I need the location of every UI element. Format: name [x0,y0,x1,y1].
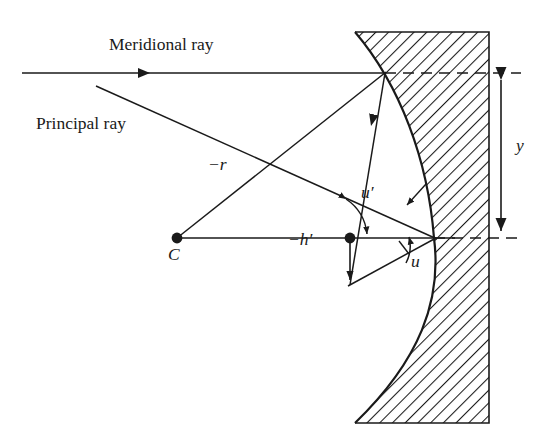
label-principal-ray: Principal ray [36,115,126,133]
leader-arrow-u-prime [407,184,426,205]
label-angle-u: u [411,253,420,271]
meridional-ray-reflected [350,73,385,285]
diagram-canvas [0,0,550,445]
reflected-ray-line [350,73,385,285]
glass-medium-body [355,32,489,423]
label-center-of-curvature: C [168,246,180,264]
leader-line-u [399,241,409,254]
reflected-ray-direction-arrow [371,110,375,126]
center-of-curvature-point [172,233,183,244]
label-ray-height-y: y [516,137,524,155]
label-angle-u-prime: u′ [361,184,374,202]
optics-ray-diagram: Meridional ray Principal ray −r −h′ u′ u… [0,0,550,445]
principal-ray-line [96,86,437,239]
label-image-height: −h′ [288,231,312,249]
label-radius: −r [208,156,227,174]
lower-marginal-ray-line [348,238,436,286]
image-point-marker [345,233,356,244]
glass-hatch-fill [355,32,489,423]
label-meridional-ray: Meridional ray [109,36,213,54]
